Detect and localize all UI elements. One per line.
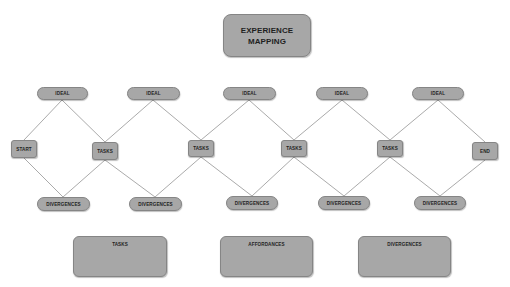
tasks-node-3: TASKS [281,140,307,157]
divergences-node-label: DIVERGENCES [46,202,81,207]
affordances-panel: AFFORDANCES [220,236,313,277]
ideal-node-label: IDEAL [335,91,349,96]
divergences-node-label: DIVERGENCES [138,202,173,207]
experience-mapping-diagram: EXPERIENCE MAPPING IDEAL IDEAL IDEAL IDE… [0,0,510,287]
ideal-node-label: IDEAL [55,91,69,96]
ideal-node-label: IDEAL [431,91,445,96]
title-line-2: MAPPING [248,36,286,47]
tasks-node-1: TASKS [92,142,118,160]
divergences-node-2: DIVERGENCES [129,197,182,211]
divergences-panel: DIVERGENCES [358,236,451,277]
tasks-node-2: TASKS [188,140,214,157]
title-box: EXPERIENCE MAPPING [223,14,311,57]
divergences-node-label: DIVERGENCES [423,201,458,206]
start-node-label: START [16,147,31,152]
tasks-node-label: TASKS [382,146,398,151]
end-node: END [472,142,498,160]
ideal-node-2: IDEAL [127,87,180,100]
ideal-node-label: IDEAL [242,91,256,96]
ideal-node-1: IDEAL [37,87,88,100]
tasks-node-4: TASKS [377,140,403,157]
divergences-node-label: DIVERGENCES [235,201,270,206]
tasks-panel-label: TASKS [112,242,128,247]
ideal-node-4: IDEAL [316,87,368,100]
ideal-node-3: IDEAL [223,87,276,100]
title-line-1: EXPERIENCE [241,25,294,36]
tasks-node-label: TASKS [286,146,302,151]
divergences-node-1: DIVERGENCES [37,197,90,211]
affordances-panel-label: AFFORDANCES [248,242,284,247]
divergences-node-label: DIVERGENCES [327,201,362,206]
ideal-node-5: IDEAL [412,87,464,100]
tasks-node-label: TASKS [97,149,113,154]
tasks-node-label: TASKS [193,146,209,151]
divergences-node-4: DIVERGENCES [318,196,370,210]
divergences-node-3: DIVERGENCES [226,196,278,210]
ideal-node-label: IDEAL [146,91,160,96]
divergences-panel-label: DIVERGENCES [387,242,422,247]
start-node: START [11,140,37,158]
end-node-label: END [480,149,490,154]
divergences-node-5: DIVERGENCES [414,196,466,210]
tasks-panel: TASKS [73,236,167,277]
